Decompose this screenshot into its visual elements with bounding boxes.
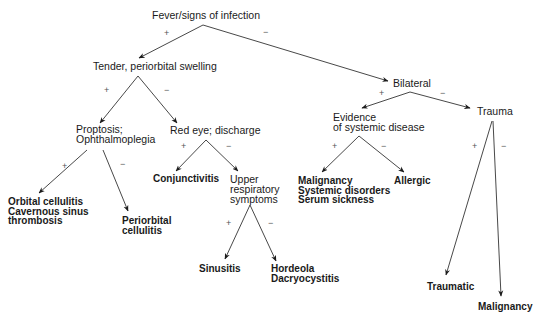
edge-uri-hordeola (250, 205, 276, 261)
plus-label: + (379, 89, 384, 98)
minus-label: − (120, 160, 125, 169)
edge-systemic-malignancy (322, 136, 359, 172)
minus-label: − (440, 89, 445, 98)
plus-label: + (164, 29, 169, 38)
plus-label: + (62, 162, 67, 171)
edge-bilateral-systemic (362, 92, 410, 108)
node-tender-swelling: Tender, periorbital swelling (93, 61, 217, 71)
outcome-traumatic: Traumatic (427, 282, 474, 292)
node-red-eye: Red eye; discharge (170, 125, 260, 135)
plus-label: + (104, 86, 109, 95)
minus-label: − (226, 142, 231, 151)
plus-label: + (472, 142, 477, 151)
edge-redeye-uri (206, 140, 238, 171)
minus-label: − (164, 86, 169, 95)
edge-trauma-traumatic (446, 121, 492, 275)
minus-label: − (381, 142, 386, 151)
node-fever: Fever/signs of infection (152, 10, 260, 20)
outcome-conjunctivitis: Conjunctivitis (153, 174, 219, 184)
outcome-hordeola-dacryocystitis: Hordeola Dacryocystitis (271, 264, 339, 283)
plus-label: + (181, 142, 186, 151)
outcome-malignancy-systemic: Malignancy Systemic disorders Serum sick… (298, 176, 390, 205)
plus-label: + (332, 142, 337, 151)
outcome-periorbital-cellulitis: Periorbital cellulitis (122, 216, 171, 235)
edge-trauma-malignancy (493, 121, 501, 296)
edge-root-tender (139, 25, 203, 58)
edge-tender-proptosis (100, 76, 138, 123)
minus-label: − (268, 219, 273, 228)
node-systemic-disease: Evidence of systemic disease (333, 112, 425, 132)
plus-label: + (226, 219, 231, 228)
outcome-sinusitis: Sinusitis (199, 264, 241, 274)
outcome-allergic: Allergic (394, 176, 431, 186)
node-trauma: Trauma (477, 106, 513, 116)
minus-label: − (501, 142, 506, 151)
edge-proptosis-orbital (39, 150, 87, 193)
edge-tender-redeye (138, 76, 177, 123)
node-bilateral: Bilateral (393, 78, 431, 88)
edge-root-bilateral (203, 25, 388, 81)
edge-uri-sinusitis (225, 205, 250, 259)
decision-tree-diagram: + − + − + − + − + − + − + − + − Fever/si… (0, 0, 541, 322)
minus-label: − (263, 28, 268, 37)
node-proptosis: Proptosis; Ophthalmoplegia (76, 124, 155, 144)
outcome-orbital-cellulitis: Orbital cellulitis Cavernous sinus throm… (8, 197, 89, 226)
node-upper-respiratory: Upper respiratory symptoms (230, 174, 280, 204)
outcome-malignancy: Malignancy (478, 302, 532, 312)
